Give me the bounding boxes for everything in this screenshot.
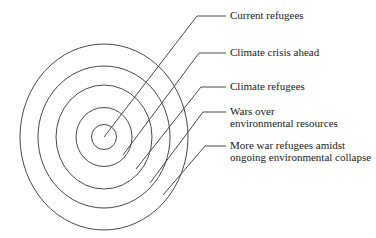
ring-label-climate-crisis-ahead: Climate crisis ahead	[230, 47, 319, 59]
ring-label-current-refugees: Current refugees	[230, 10, 304, 22]
ring-label-line: Climate crisis ahead	[230, 47, 319, 59]
concentric-circles-diagram: Current refugees Climate crisis ahead Cl…	[0, 0, 376, 238]
leader-line-climate-crisis-ahead	[123, 53, 226, 155]
ring-label-climate-refugees: Climate refugees	[230, 81, 305, 93]
ring-label-more-war-refugees: More war refugees amidst ongoing environ…	[230, 140, 371, 163]
ring-label-line: More war refugees amidst	[230, 140, 371, 152]
ring-label-line: Climate refugees	[230, 81, 305, 93]
ring-label-line: Current refugees	[230, 10, 304, 22]
leader-line-current-refugees	[104, 16, 226, 137]
ring-label-line: Wars over	[230, 106, 338, 118]
ring-label-wars-over-resources: Wars over environmental resources	[230, 106, 338, 129]
ring-label-line: environmental resources	[230, 118, 338, 130]
ring-label-line: ongoing environmental collapse	[230, 152, 371, 164]
